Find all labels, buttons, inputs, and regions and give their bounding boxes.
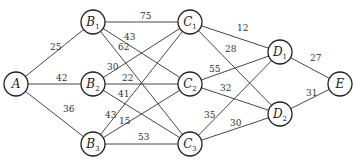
edge-weight-A-B3: 36 (63, 104, 75, 114)
edge-A-B3 (16, 84, 93, 144)
node-B3: B3 (81, 132, 105, 156)
node-label: E (335, 77, 345, 91)
edge-weight-C2-D1: 55 (209, 64, 221, 74)
edge-weight-A-B1: 25 (50, 42, 62, 52)
edge-weight-B2-C1: 30 (107, 62, 119, 72)
edge-weight-D1-E: 27 (310, 53, 322, 63)
nodes-layer: AB1B2B3C1C2C3D1D2E (4, 10, 352, 156)
node-C2: C2 (178, 72, 202, 96)
node-D2: D2 (268, 102, 292, 126)
edge-weight-C3-D2: 30 (230, 118, 242, 128)
edge-weight-A-B2: 42 (56, 73, 67, 83)
node-E: E (328, 72, 352, 96)
edge-weight-B2-C2: 22 (122, 73, 133, 83)
node-A: A (4, 72, 28, 96)
edge-weight-C1-D2: 28 (225, 44, 237, 54)
edge-weight-B3-C1: 43 (105, 110, 117, 120)
edge-weight-B3-C3: 53 (138, 132, 150, 142)
edge-weight-B2-C3: 41 (118, 89, 129, 99)
node-B2: B2 (81, 72, 105, 96)
edge-C2-D1 (190, 52, 280, 84)
weighted-graph-diagram: 2542367543623022414315531228553235302731… (0, 0, 364, 168)
edge-A-B1 (16, 22, 93, 84)
node-C1: C1 (178, 10, 202, 34)
edge-weight-C1-D1: 12 (237, 23, 248, 33)
edge-weight-C3-D1: 35 (204, 110, 216, 120)
node-D1: D1 (268, 40, 292, 64)
node-C3: C3 (178, 132, 202, 156)
edge-weight-B1-C2: 43 (124, 32, 136, 42)
edge-weight-B3-C2: 15 (119, 116, 131, 126)
node-label: A (11, 77, 21, 91)
edge-weight-B1-C3: 62 (118, 42, 129, 52)
edge-C3-D1 (190, 52, 280, 144)
edge-weight-B1-C1: 75 (140, 11, 152, 21)
edge-weight-C2-D2: 32 (220, 83, 231, 93)
edge-weight-D2-E: 31 (306, 88, 317, 98)
node-B1: B1 (81, 10, 105, 34)
